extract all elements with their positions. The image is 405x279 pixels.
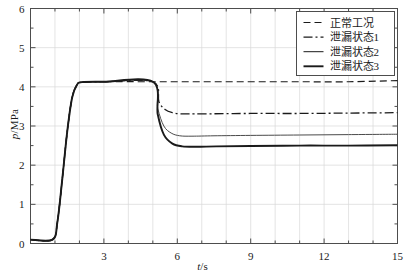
y-axis-tick-label: 2: [19, 159, 25, 171]
y-axis-label: p/MPa: [8, 94, 20, 154]
chart-figure: 01234563691215正常工况泄漏状态1泄漏状态2泄漏状态3 p/MPa …: [0, 0, 405, 279]
legend-label-1: 正常工况: [330, 17, 374, 29]
legend-label-4: 泄漏状态3: [330, 59, 380, 72]
series-line-1: [31, 81, 398, 241]
legend-label-2: 泄漏状态1: [330, 30, 380, 43]
y-axis-tick-label: 0: [19, 238, 25, 250]
line-chart-svg: 01234563691215正常工况泄漏状态1泄漏状态2泄漏状态3: [0, 0, 405, 279]
y-axis-tick-label: 5: [19, 42, 25, 54]
series-line-4: [31, 79, 398, 241]
series-line-2: [31, 80, 398, 241]
series-line-3: [31, 80, 398, 241]
chart-legend: 正常工况泄漏状态1泄漏状态2泄漏状态3: [297, 12, 395, 76]
y-axis-tick-label: 4: [19, 81, 25, 93]
y-axis-tick-label: 6: [19, 3, 25, 15]
y-axis-tick-label: 1: [19, 198, 25, 210]
x-axis-label: t/s: [0, 260, 405, 272]
legend-label-3: 泄漏状态2: [330, 45, 380, 58]
